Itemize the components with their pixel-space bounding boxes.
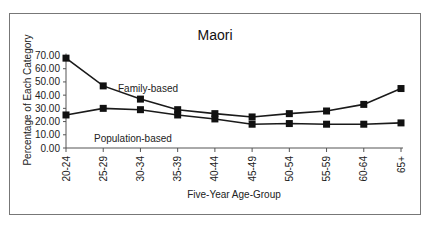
data-point-marker [63,111,70,118]
data-point-marker [211,115,218,122]
data-point-marker [323,108,330,115]
data-point-marker [249,113,256,120]
x-tick-label: 50-54 [284,156,295,182]
annotation-population-based: Population-based [94,133,172,144]
x-tick-label: 40-44 [209,156,220,182]
data-point-marker [137,96,144,103]
y-tick-label: 10.00 [35,129,60,140]
data-point-marker [398,85,405,92]
x-tick-label: 65+ [396,156,407,173]
data-point-marker [100,82,107,89]
data-point-marker [249,121,256,128]
x-tick-label: 30-34 [135,156,146,182]
y-axis-label: Percentage of Each Category [22,34,33,165]
data-point-marker [286,110,293,117]
y-tick-label: 30.00 [35,103,60,114]
y-tick-label: 40.00 [35,90,60,101]
x-tick-label: 55-59 [321,156,332,182]
data-point-marker [398,119,405,126]
data-point-marker [174,111,181,118]
annotation-family-based: Family-based [118,83,178,94]
data-point-marker [63,55,70,62]
data-point-marker [360,121,367,128]
x-tick-label: 20-24 [61,156,72,182]
x-tick-label: 45-49 [247,156,258,182]
x-tick-label: 60-64 [358,156,369,182]
data-point-marker [360,101,367,108]
line-chart: Maori0.0010.0020.0030.0040.0050.0060.007… [0,0,430,229]
chart-title: Maori [197,27,232,43]
x-axis-label: Five-Year Age-Group [187,189,281,200]
x-tick-label: 35-39 [172,156,183,182]
data-point-marker [100,105,107,112]
data-point-marker [323,121,330,128]
data-point-marker [137,106,144,113]
y-tick-label: 70.00 [35,50,60,61]
series-line-population-based [66,108,401,124]
y-tick-label: 50.00 [35,76,60,87]
x-tick-label: 25-29 [98,156,109,182]
y-tick-label: 60.00 [35,63,60,74]
y-tick-label: 20.00 [35,116,60,127]
y-tick-label: 0.00 [41,143,61,154]
data-point-marker [286,120,293,127]
